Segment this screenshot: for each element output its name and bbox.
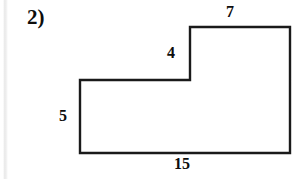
polygon-outline — [80, 27, 290, 153]
side-label-bottom: 15 — [174, 156, 190, 172]
problem-number: 2) — [27, 7, 45, 28]
side-label-top: 7 — [226, 4, 234, 20]
side-label-left: 5 — [59, 108, 67, 124]
side-label-notch: 4 — [167, 45, 175, 61]
worksheet-figure-page: 2) 7 4 5 15 — [0, 0, 306, 179]
l-shape-figure — [0, 0, 306, 179]
